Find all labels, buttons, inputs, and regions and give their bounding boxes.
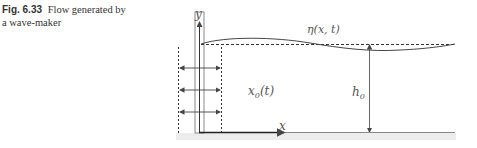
depth-label: h0 xyxy=(352,85,365,101)
paddle-displacement-label: x0(t) xyxy=(248,84,274,100)
surface-elevation-label: η(x, t) xyxy=(307,23,340,36)
seabed-shading xyxy=(176,133,456,140)
y-axis-label: y xyxy=(194,7,202,21)
wave-maker-diagram: y η(x, t) h0 x0(t) x xyxy=(0,0,477,148)
x-axis-label: x xyxy=(279,119,286,133)
